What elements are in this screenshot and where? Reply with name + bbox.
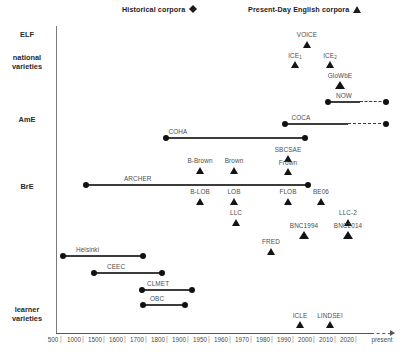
range-end-dot-coha[interactable] [302,135,308,141]
point-marker-lob[interactable] [230,198,238,205]
range-start-dot-clmet[interactable] [139,287,145,293]
point-label-b-brown: B-Brown [187,157,212,164]
point-marker-brown[interactable] [230,167,238,174]
timeline-chart: Historical corpora Present-Day English c… [0,0,403,352]
point-marker-flob[interactable] [284,198,292,205]
point-label-be06: BE06 [313,188,329,195]
range-line-coha [166,137,305,139]
point-marker-frown[interactable] [284,168,292,175]
range-line-ceec [94,272,162,274]
range-line-now [328,101,360,103]
point-marker-bnc1994[interactable] [299,231,309,239]
point-label-b-lob: B-LOB [190,188,210,195]
point-label-brown: Brown [225,157,244,164]
range-end-dot-clmet[interactable] [189,287,195,293]
range-label-coca: COCA [292,114,311,121]
range-start-dot-archer[interactable] [83,182,89,188]
point-label-icle: ICLE [293,312,308,319]
point-marker-fred[interactable] [267,248,275,255]
point-label-llc-2: LLC-2 [339,209,357,216]
range-line-clmet [142,289,192,291]
range-end-dot-obc[interactable] [182,302,188,308]
range-start-dot-ceec[interactable] [91,270,97,276]
point-marker-glowbe[interactable] [335,81,345,89]
range-label-now: NOW [336,92,352,99]
point-marker-lindsei[interactable] [326,321,334,328]
point-label-fred: FRED [262,238,280,245]
range-end-dot-coca[interactable] [383,121,389,127]
range-label-coha: COHA [169,128,188,135]
point-marker-bnc2014[interactable] [343,231,353,239]
point-label-llc: LLC [230,209,242,216]
point-marker-b-brown[interactable] [196,167,204,174]
range-start-dot-obc[interactable] [140,302,146,308]
point-label-ice1: ICE1 [288,52,302,59]
point-marker-icle[interactable] [296,321,304,328]
point-label-voice: VOICE [297,31,317,38]
range-end-dot-ceec[interactable] [159,270,165,276]
range-start-dot-helsinki[interactable] [60,253,66,259]
point-label-bnc1994: BNC1994 [290,222,318,229]
range-label-obc: OBC [150,295,164,302]
range-start-dot-coca[interactable] [282,121,288,127]
point-label-glowbe: GloWbE [328,72,352,79]
range-line-archer [86,184,308,186]
range-label-helsinki: Helsinki [76,246,99,253]
point-label-flob: FLOB [279,188,296,195]
range-start-dot-now[interactable] [325,99,331,105]
point-label-lindsei: LINDSEI [317,312,343,319]
range-dash-coca [348,123,386,124]
point-marker-ice2[interactable] [326,61,334,68]
point-label-bnc2014: BNC2014 [334,222,362,229]
point-label-sbcsae: SBCSAE [275,146,302,153]
range-label-ceec: CEEC [107,263,125,270]
range-end-dot-helsinki[interactable] [140,253,146,259]
point-marker-b-lob[interactable] [196,198,204,205]
point-marker-be06[interactable] [317,198,325,205]
point-marker-ice1[interactable] [291,61,299,68]
range-end-dot-now[interactable] [383,99,389,105]
point-label-ice2: ICE2 [323,52,337,59]
range-label-archer: ARCHER [124,175,152,182]
range-label-clmet: CLMET [147,280,169,287]
point-marker-voice[interactable] [303,41,311,48]
range-end-dot-archer[interactable] [305,182,311,188]
range-line-coca [285,123,348,125]
plot-area: VOICE ICE1 ICE2 GloWbE NOW COCA COHA SBC… [0,0,403,352]
range-line-obc [143,304,185,306]
point-label-frown: Frown [279,159,297,166]
range-start-dot-coha[interactable] [163,135,169,141]
range-line-helsinki [63,255,143,257]
point-label-lob: LOB [227,188,240,195]
point-marker-llc[interactable] [232,219,240,226]
